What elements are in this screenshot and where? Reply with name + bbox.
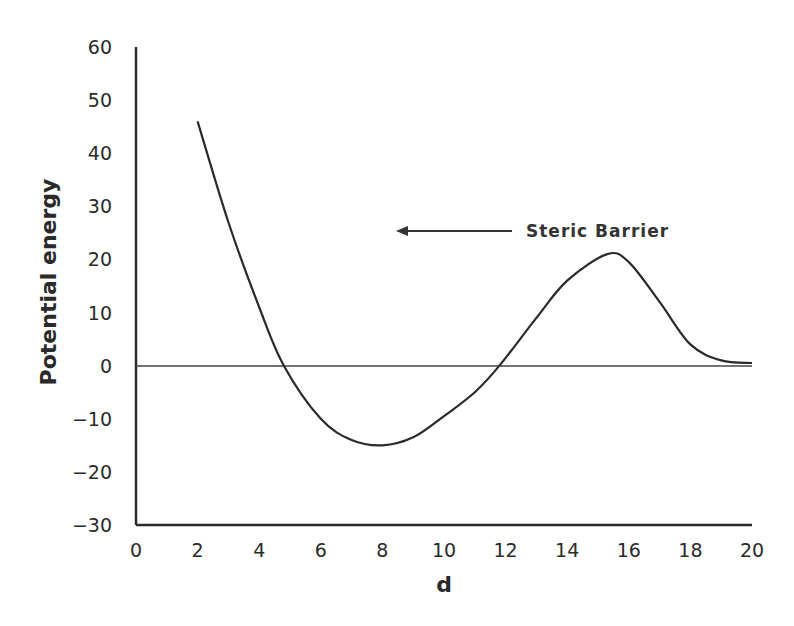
- y-tick-label: 20: [88, 248, 112, 270]
- x-tick-label: 2: [192, 539, 204, 561]
- annotation-text: Steric Barrier: [526, 221, 669, 241]
- x-tick-label: 20: [740, 539, 764, 561]
- y-axis-label: Potential energy: [36, 179, 61, 386]
- y-tick-label: −20: [72, 461, 112, 483]
- x-tick-label: 14: [555, 539, 579, 561]
- y-tick-label: 10: [88, 302, 112, 324]
- x-tick-labels: 02468101214161820: [130, 539, 764, 561]
- potential-energy-curve: [198, 121, 752, 445]
- y-tick-label: 0: [100, 355, 112, 377]
- x-tick-label: 12: [494, 539, 518, 561]
- x-tick-label: 4: [253, 539, 265, 561]
- x-tick-label: 6: [315, 539, 327, 561]
- axes-frame: [136, 47, 752, 525]
- y-tick-labels: 6050403020100−10−20−30: [72, 36, 112, 536]
- y-tick-label: 30: [88, 195, 112, 217]
- x-tick-label: 16: [617, 539, 641, 561]
- arrow-left-icon: [396, 226, 408, 236]
- x-tick-label: 8: [376, 539, 388, 561]
- y-tick-label: −10: [72, 408, 112, 430]
- chart: 6050403020100−10−20−30 02468101214161820…: [0, 0, 794, 626]
- y-tick-label: 40: [88, 142, 112, 164]
- x-tick-label: 10: [432, 539, 456, 561]
- y-tick-label: 60: [88, 36, 112, 58]
- x-tick-label: 0: [130, 539, 142, 561]
- x-tick-label: 18: [678, 539, 702, 561]
- steric-barrier-annotation: Steric Barrier: [396, 221, 669, 241]
- y-tick-label: 50: [88, 89, 112, 111]
- y-tick-label: −30: [72, 514, 112, 536]
- x-axis-label: d: [436, 572, 452, 597]
